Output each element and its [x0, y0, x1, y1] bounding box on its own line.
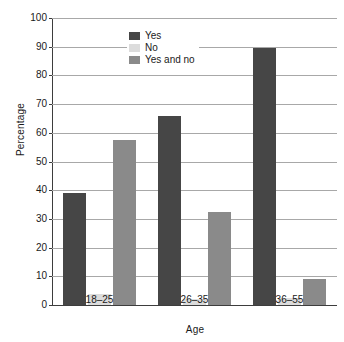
y-tick-label: 0	[41, 300, 47, 310]
legend-swatch-icon	[129, 44, 140, 52]
gridline	[52, 305, 337, 306]
x-axis-title: Age	[52, 324, 338, 335]
legend-item: Yes and no	[129, 54, 195, 65]
chart-legend: YesNoYes and no	[127, 28, 199, 69]
x-category-label: 18–25	[86, 294, 114, 305]
y-tick-label: 100	[30, 13, 47, 23]
x-category-label: 36–55	[276, 294, 304, 305]
legend-swatch-icon	[129, 32, 140, 40]
y-tick-label: 20	[36, 243, 47, 253]
y-tick-label: 70	[36, 99, 47, 109]
y-tick-label: 40	[36, 185, 47, 195]
legend-label: Yes	[145, 31, 161, 41]
bar-group	[242, 18, 337, 305]
bar	[113, 140, 136, 305]
legend-label: Yes and no	[145, 55, 195, 65]
y-tick-label: 90	[36, 42, 47, 52]
y-tick-label: 50	[36, 157, 47, 167]
bar	[158, 116, 181, 305]
x-category-label: 26–35	[181, 294, 209, 305]
bar	[208, 212, 231, 305]
bar	[303, 279, 326, 305]
y-tick-label: 10	[36, 271, 47, 281]
legend-label: No	[145, 43, 158, 53]
legend-item: Yes	[129, 30, 195, 41]
bar	[253, 48, 276, 305]
bar-chart: Percentage 0102030405060708090100 18–252…	[0, 0, 344, 342]
y-tick-label: 30	[36, 214, 47, 224]
y-tick-label: 60	[36, 128, 47, 138]
y-tick-mark	[49, 305, 52, 306]
legend-item: No	[129, 42, 195, 53]
bar	[63, 193, 86, 305]
y-tick-label: 80	[36, 70, 47, 80]
legend-swatch-icon	[129, 56, 140, 64]
y-axis-title: Percentage	[15, 70, 26, 190]
